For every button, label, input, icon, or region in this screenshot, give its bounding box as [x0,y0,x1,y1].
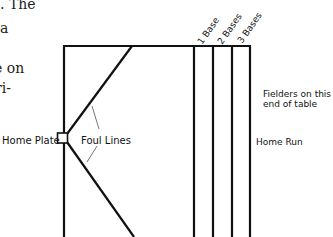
fielders-label-line-2: end of table [263,99,318,109]
foul-line-lower [67,142,134,237]
foul-lines-leader-lower [87,146,97,162]
home-plate-label: Home Plate [2,135,60,146]
baseball-table-diagram: Home Plate Foul Lines 1 Base 2 Bases 3 B… [0,0,333,237]
foul-lines-label: Foul Lines [81,135,131,146]
home-run-label: Home Run [256,137,303,147]
fielders-label-line-1: Fielders on this [263,89,331,99]
foul-lines-leader-upper [92,106,99,129]
foul-line-upper [67,46,132,134]
